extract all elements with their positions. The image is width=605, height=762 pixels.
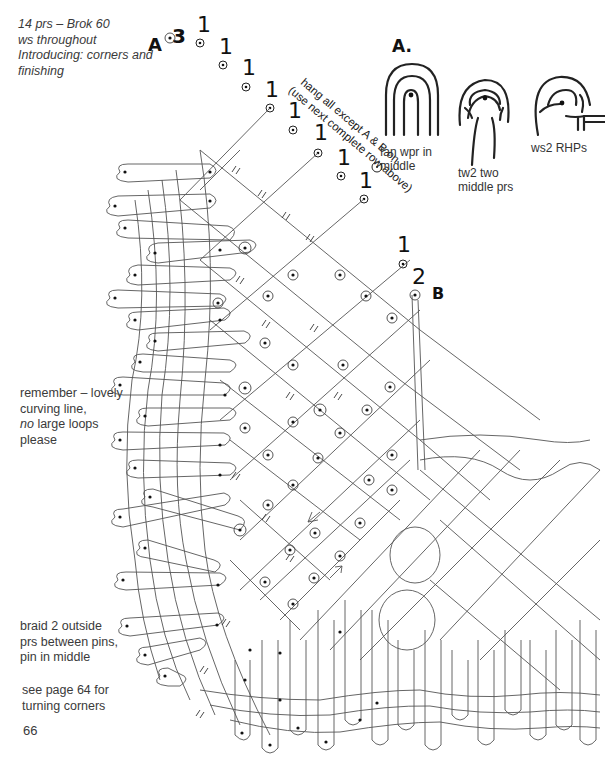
pin-dots xyxy=(113,36,416,746)
pricking-diagram xyxy=(0,0,605,762)
lace-pattern-page: 14 prs – Brok 60 ws throughout Introduci… xyxy=(0,0,605,762)
marker-pins xyxy=(196,39,407,268)
pinholes xyxy=(165,33,420,609)
inset-diagram-strokes xyxy=(386,64,605,165)
marker-pin-dots xyxy=(199,42,405,266)
lace-threads xyxy=(106,108,600,753)
inset-pin-dots xyxy=(409,93,565,106)
